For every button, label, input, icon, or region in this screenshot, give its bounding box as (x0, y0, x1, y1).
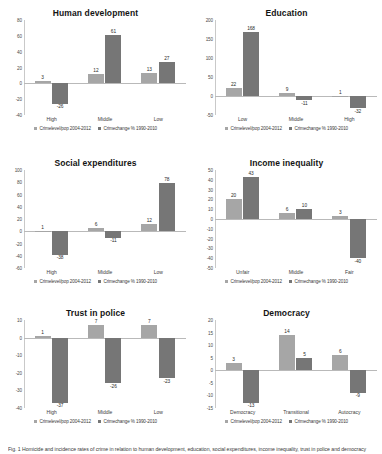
y-axis-tick: -10 (207, 226, 213, 231)
x-axis-categories: HighMiddleLow (25, 115, 187, 125)
legend-label: Crimelevel/pop 2004-2012 (39, 419, 90, 424)
y-axis-tick: 0 (20, 335, 22, 340)
x-axis-categories: LowMiddleHigh (216, 115, 378, 125)
chart-title: Democracy (195, 308, 378, 318)
chart-title: Social expenditures (4, 158, 187, 168)
bar (332, 216, 348, 219)
y-axis-tick: 30 (208, 187, 213, 192)
legend-swatch-icon (98, 420, 102, 424)
y-axis-tick: -40 (207, 256, 213, 261)
legend-swatch-icon (289, 280, 293, 284)
y-axis-tick: 0 (211, 217, 213, 222)
y-axis: 50403020100-10-20-30-40-50 (195, 170, 215, 268)
y-axis-tick: -5 (209, 380, 213, 385)
bar-group: 3-26 (25, 20, 78, 115)
bar (141, 73, 157, 83)
y-axis-tick: -20 (16, 241, 22, 246)
legend-item: Crimechange % 1990-2010 (98, 126, 157, 131)
y-axis-tick: -20 (16, 370, 22, 375)
bar-value-label: 3 (223, 357, 245, 362)
y-axis-tick: -50 (207, 266, 213, 271)
bar-value-label: -38 (49, 255, 71, 260)
bar (332, 96, 348, 97)
bar (105, 35, 121, 83)
bar-value-label: -26 (49, 104, 71, 109)
chart-panel: Trust in police100-10-20-30-401-377-267-… (0, 300, 191, 446)
bar-value-label: 6 (329, 349, 351, 354)
x-axis-tick-label: High (25, 116, 78, 122)
y-axis-tick: -40 (16, 406, 22, 411)
y-axis-tick: -50 (207, 113, 213, 118)
y-axis: 100-10-20-30-40 (4, 320, 24, 408)
y-axis-tick: 60 (17, 33, 22, 38)
bar-value-label: 14 (276, 329, 298, 334)
bar (243, 370, 259, 403)
bar-value-label: 43 (240, 171, 262, 176)
bar-group: 1261 (78, 20, 131, 115)
y-axis: 20151050-5-10-15 (195, 320, 215, 408)
y-axis-tick: 10 (208, 207, 213, 212)
chart-legend: Crimelevel/pop 2004-2012Crimechange % 19… (4, 419, 187, 424)
bar-value-label: 1 (329, 90, 351, 95)
legend-item: Crimelevel/pop 2004-2012 (34, 279, 91, 284)
x-axis-categories: HighMiddleLow (25, 268, 187, 278)
bar-value-label: 1 (32, 330, 54, 335)
bar-group: 7-26 (78, 320, 131, 408)
y-axis-tick: 20 (17, 65, 22, 70)
plot-area: 100-10-20-30-401-377-267-23 (4, 320, 187, 408)
chart-panel: Education200150100500-50221689-111-32Low… (191, 0, 382, 150)
legend-label: Crimechange % 1990-2010 (103, 419, 157, 424)
legend-swatch-icon (98, 127, 102, 131)
y-axis-tick: 60 (17, 192, 22, 197)
bar-group: 1327 (132, 20, 185, 115)
bar (279, 213, 295, 219)
bar-group: 1278 (132, 170, 185, 268)
bar-value-label: 10 (293, 203, 315, 208)
plot-area: 50403020100-10-20-30-40-5020436103-40 (195, 170, 378, 268)
plot-area: 200150100500-50221689-111-32 (195, 20, 378, 115)
y-axis-tick: 0 (211, 368, 213, 373)
bar-value-label: 3 (329, 210, 351, 215)
x-axis-tick-label: Low (132, 269, 185, 275)
bar-group: 3-13 (216, 320, 269, 408)
bar-value-label: 13 (138, 67, 160, 72)
y-axis: 100806040200-20-40-60 (4, 170, 24, 268)
bar (159, 62, 175, 83)
chart-panel: Social expenditures100806040200-20-40-60… (0, 150, 191, 300)
y-axis-tick: 10 (17, 318, 22, 323)
legend-label: Crimelevel/pop 2004-2012 (230, 419, 281, 424)
bar-group: 6-9 (323, 320, 376, 408)
bar (88, 325, 104, 337)
bar (52, 338, 68, 403)
bars-layer: 3-131456-9 (216, 320, 378, 408)
bar-group: 1-32 (323, 20, 376, 115)
legend-item: Crimelevel/pop 2004-2012 (34, 419, 91, 424)
chart-legend: Crimelevel/pop 2004-2012Crimechange % 19… (4, 279, 187, 284)
legend-swatch-icon (34, 280, 38, 284)
legend-swatch-icon (225, 127, 229, 131)
bar (35, 231, 51, 232)
x-axis-tick-label: High (323, 116, 376, 122)
legend-item: Crimelevel/pop 2004-2012 (225, 279, 282, 284)
bar-group: 1-38 (25, 170, 78, 268)
bar-value-label: 61 (102, 29, 124, 34)
x-axis-tick-label: Middle (78, 269, 131, 275)
x-axis-tick-label: Middle (269, 269, 322, 275)
bar (159, 338, 175, 378)
x-axis-tick-label: Low (132, 116, 185, 122)
legend-swatch-icon (289, 420, 293, 424)
legend-label: Crimelevel/pop 2004-2012 (39, 279, 90, 284)
chart-title: Education (195, 8, 378, 18)
legend-label: Crimechange % 1990-2010 (294, 126, 348, 131)
y-axis-tick: 10 (208, 343, 213, 348)
legend-item: Crimelevel/pop 2004-2012 (34, 126, 91, 131)
bar (105, 231, 121, 238)
y-axis: 200150100500-50 (195, 20, 215, 115)
chart-grid: Human development806040200-20-403-261261… (0, 0, 382, 446)
bar (350, 219, 366, 258)
bar-group: 3-40 (323, 170, 376, 268)
x-axis-tick-label: High (25, 269, 78, 275)
y-axis-tick: 50 (208, 168, 213, 173)
bar-value-label: -9 (347, 393, 369, 398)
chart-title: Human development (4, 8, 187, 18)
